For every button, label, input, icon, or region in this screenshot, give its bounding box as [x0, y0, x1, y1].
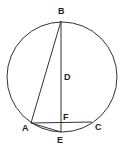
circle — [7, 22, 117, 132]
segment-ae — [31, 123, 61, 132]
label-a: A — [22, 123, 29, 133]
label-d: D — [64, 72, 71, 82]
segment-ac — [31, 122, 92, 123]
geometry-diagram: B D F A C E — [0, 0, 123, 151]
segment-ab — [31, 21, 61, 123]
label-b: B — [58, 6, 65, 16]
label-f: F — [63, 112, 69, 122]
label-e: E — [57, 135, 63, 145]
label-c: C — [95, 122, 102, 132]
